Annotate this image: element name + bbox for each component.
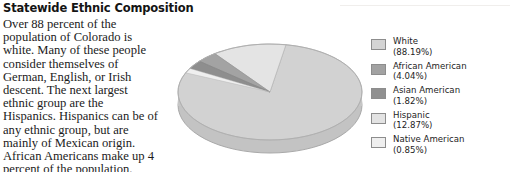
legend-item-label: Native American — [393, 134, 464, 144]
legend-item-text: White (88.19%) — [393, 36, 432, 57]
chart-figure: Statewide Ethnic Composition Over 88 per… — [0, 0, 524, 172]
legend-item-label: African American — [393, 61, 467, 71]
page-title: Statewide Ethnic Composition — [3, 1, 194, 15]
legend-item-percent: (1.82%) — [393, 96, 460, 107]
legend-item-text: Asian American (1.82%) — [393, 85, 460, 106]
legend-item-hispanic: Hispanic (12.87%) — [371, 110, 521, 132]
pie-chart — [174, 22, 366, 162]
legend-item-percent: (12.87%) — [393, 120, 432, 131]
legend-item-percent: (4.04%) — [393, 71, 467, 82]
legend-item-label: White — [393, 36, 418, 46]
legend-item-native-american: Native American (0.85%) — [371, 134, 521, 156]
legend-swatch-icon — [371, 39, 386, 50]
legend-item-text: Native American (0.85%) — [393, 134, 464, 155]
legend-item-label: Hispanic — [393, 110, 430, 120]
legend-item-text: African American (4.04%) — [393, 61, 467, 82]
chart-legend: White (88.19%) African American (4.04%) … — [371, 36, 521, 159]
legend-item-label: Asian American — [393, 85, 460, 95]
pie-slices — [178, 44, 362, 140]
legend-item-percent: (88.19%) — [393, 47, 432, 58]
legend-swatch-icon — [371, 113, 386, 124]
legend-item-white: White (88.19%) — [371, 36, 521, 58]
scan-artifact-line — [340, 5, 510, 6]
legend-item-text: Hispanic (12.87%) — [393, 110, 432, 131]
legend-item-percent: (0.85%) — [393, 145, 464, 156]
legend-swatch-icon — [371, 64, 386, 75]
legend-swatch-icon — [371, 137, 386, 148]
legend-swatch-icon — [371, 88, 386, 99]
legend-item-asian-american: Asian American (1.82%) — [371, 85, 521, 107]
description-paragraph: Over 88 percent of the population of Col… — [3, 18, 159, 172]
legend-item-african-american: African American (4.04%) — [371, 61, 521, 83]
